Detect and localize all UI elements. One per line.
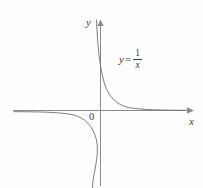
x-axis-label: x — [189, 116, 194, 127]
origin-label: 0 — [89, 112, 94, 123]
equation-equals-sign: = — [125, 54, 131, 65]
fraction-denominator: x — [134, 61, 142, 71]
equation-lhs: y — [119, 54, 124, 65]
hyperbola-plot — [0, 0, 203, 188]
curve-branch-negative — [14, 112, 97, 188]
y-axis-label: y — [86, 17, 91, 28]
function-graph-figure: y x 0 y = 1 x — [0, 0, 203, 188]
fraction-numerator: 1 — [133, 49, 142, 59]
equation-annotation: y = 1 x — [119, 49, 142, 70]
equation-fraction: 1 x — [133, 49, 142, 70]
